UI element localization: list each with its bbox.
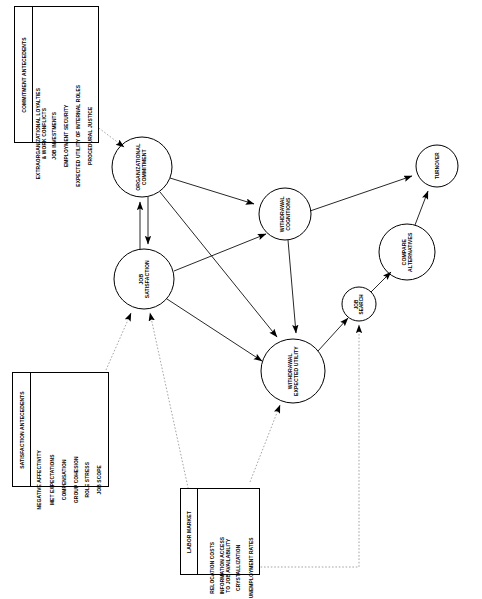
box-item: UNEMPLOYMENT RATES xyxy=(245,491,257,571)
box-item: COMPENSATION xyxy=(58,375,70,483)
box-heading-text-labor-market: LABOR MARKET xyxy=(186,511,192,553)
node-circle-turnover[interactable] xyxy=(416,145,458,187)
box-heading-satisfaction-antecedents: SATISFACTION ANTECEDENTS xyxy=(13,373,31,486)
box-item-text: MET EXPECTATIONS xyxy=(49,455,55,506)
edge-labor-box-to-js xyxy=(150,313,189,492)
edge-js-to-wc xyxy=(174,234,266,271)
box-item-text: PROCEDURAL JUSTICE xyxy=(88,107,94,165)
box-items-satisfaction-antecedents: JOB SCOPE ROLE STRESS GROUP COHESION COM… xyxy=(31,373,108,486)
node-circles xyxy=(112,137,458,403)
box-heading-text-satisfaction-antecedents: SATISFACTION ANTECEDENTS xyxy=(19,391,25,468)
node-circle-job-search[interactable] xyxy=(342,287,376,321)
box-item: INFORMATION ACCESSTO JOB AVAILABILITY xyxy=(219,491,233,571)
box-item: ROLE STRESS xyxy=(82,375,94,483)
edge-wc-to-weu xyxy=(288,240,296,333)
box-item-text: COMPENSATION xyxy=(61,460,67,501)
box-item: PROCEDURAL JUSTICE xyxy=(85,9,97,139)
box-labor-market[interactable]: LABOR MARKET UNEMPLOYMENT RATES CRYSTALL… xyxy=(180,488,260,575)
box-satisfaction-antecedents[interactable]: SATISFACTION ANTECEDENTS JOB SCOPE ROLE … xyxy=(12,372,109,487)
node-circle-withdrawal-expected-utility[interactable] xyxy=(261,339,325,403)
box-item-text: RELOCATION COSTS xyxy=(210,542,216,594)
node-circle-withdrawal-cognitions[interactable] xyxy=(259,188,311,240)
edge-wc-to-turnover xyxy=(310,176,412,211)
box-item: NEGATIVE AFFECTIVITY xyxy=(34,375,46,483)
box-heading-commitment-antecedents: COMMITMENT ANTECEDENTS xyxy=(15,7,33,142)
box-item: GROUP COHESION xyxy=(70,375,82,483)
box-item: JOB SCOPE xyxy=(94,375,106,483)
box-item-text: EXPECTED UTILITY OF INTERNAL ROLES xyxy=(76,85,82,187)
box-heading-labor-market: LABOR MARKET xyxy=(181,489,198,574)
box-item: EMPLOYMENT SECURITY xyxy=(61,9,73,139)
edge-oc-to-wc xyxy=(170,178,254,204)
box-item: JOB INVESTMENTS xyxy=(49,9,61,139)
box-item: RELOCATION COSTS xyxy=(207,491,219,571)
box-item-text: ROLE STRESS xyxy=(85,462,91,498)
box-item-text: GROUP COHESION xyxy=(73,457,79,504)
node-circle-organizational-commitment[interactable] xyxy=(112,137,172,197)
box-item: EXTRAORGANIZATIONAL LOYALTIES& WORK CONF… xyxy=(35,9,49,139)
edge-compare-to-turnover xyxy=(415,191,428,225)
box-item-text: EXTRAORGANIZATIONAL LOYALTIES& WORK CONF… xyxy=(36,88,47,179)
node-circle-compare-alternatives[interactable] xyxy=(379,224,435,280)
box-item-text: CRYSTALLIZATION xyxy=(236,545,242,591)
box-item-text: JOB SCOPE xyxy=(97,465,103,494)
box-item: EXPECTED UTILITY OF INTERNAL ROLES xyxy=(73,9,85,139)
box-commitment-antecedents[interactable]: COMMITMENT ANTECEDENTS PROCEDURAL JUSTIC… xyxy=(14,6,99,143)
box-item-text: EMPLOYMENT SECURITY xyxy=(64,105,70,168)
box-item-text: UNEMPLOYMENT RATES xyxy=(248,538,254,599)
box-item: CRYSTALLIZATION xyxy=(233,491,245,571)
edge-jobsearch-to-compare xyxy=(371,272,391,292)
box-item-text: JOB INVESTMENTS xyxy=(52,112,58,160)
edge-satisfaction-box-to-js xyxy=(106,313,131,370)
box-item-text: NEGATIVE AFFECTIVITY xyxy=(37,451,43,510)
box-items-commitment-antecedents: PROCEDURAL JUSTICE EXPECTED UTILITY OF I… xyxy=(33,7,99,142)
box-heading-text-commitment-antecedents: COMMITMENT ANTECEDENTS xyxy=(21,37,27,112)
edge-js-to-weu xyxy=(167,299,262,361)
box-items-labor-market: UNEMPLOYMENT RATES CRYSTALLIZATION INFOR… xyxy=(198,489,259,574)
box-item: MET EXPECTATIONS xyxy=(46,375,58,483)
edge-labor-box-to-weu xyxy=(250,405,280,482)
node-circle-job-satisfaction[interactable] xyxy=(114,249,174,309)
edge-weu-to-jobsearch xyxy=(318,318,348,351)
box-item-text: INFORMATION ACCESSTO JOB AVAILABILITY xyxy=(220,537,231,595)
